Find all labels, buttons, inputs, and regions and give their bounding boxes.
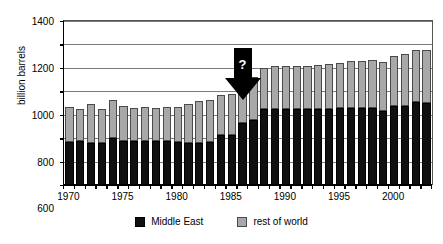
bar-segment-rest-of-world (293, 66, 301, 109)
y-axis-tick-label: 1000 (32, 109, 54, 120)
legend-label-middle-east: Middle East (151, 216, 203, 227)
bar-column (401, 54, 409, 185)
gridline (64, 21, 432, 22)
bar-segment-middle-east (282, 109, 290, 185)
x-axis-tick (334, 185, 335, 189)
y-axis-tick: 1400 (60, 21, 64, 22)
x-axis-tick (215, 185, 216, 189)
bar-column (282, 66, 290, 185)
bar-segment-rest-of-world (347, 61, 355, 108)
bar-column (325, 64, 333, 185)
x-axis-labels: 1970197519801985199019952000 (63, 185, 432, 209)
bar-segment-rest-of-world (195, 101, 203, 143)
bar-column (152, 108, 160, 185)
y-axis-tick-label: 1200 (32, 62, 54, 73)
bar-column (217, 95, 225, 185)
bar-segment-rest-of-world (401, 54, 409, 106)
bar-segment-rest-of-world (152, 108, 160, 142)
bar-column (87, 104, 95, 185)
bar-column (163, 107, 171, 185)
bar-column (184, 104, 192, 185)
bar-column (76, 109, 84, 185)
x-axis-tick (290, 185, 291, 189)
legend-label-rest-of-world: rest of world (253, 216, 307, 227)
bar-segment-middle-east (228, 135, 236, 185)
x-axis-tick (409, 185, 410, 189)
x-axis-tick (344, 185, 345, 189)
bar-segment-middle-east (184, 143, 192, 185)
x-axis-tick (247, 185, 248, 189)
x-axis-tick (355, 185, 356, 189)
x-axis-tick (225, 185, 226, 189)
bar-column (314, 65, 322, 185)
bar-segment-middle-east (119, 141, 127, 185)
bar-column (336, 63, 344, 185)
bar-segment-middle-east (368, 108, 376, 185)
bar-segment-rest-of-world (76, 109, 84, 142)
bar-column (65, 107, 73, 185)
bar-segment-rest-of-world (87, 104, 95, 142)
bar-segment-rest-of-world (379, 62, 387, 111)
bar-segment-middle-east (152, 141, 160, 185)
bar-column (119, 106, 127, 185)
bar-segment-middle-east (260, 109, 268, 185)
chart-figure: billion barrels 020040060080010001200140… (0, 0, 443, 244)
bar-segment-rest-of-world (325, 64, 333, 109)
bar-segment-middle-east (238, 123, 246, 185)
bar-segment-middle-east (293, 109, 301, 185)
down-arrow-annotation: ? (225, 48, 261, 100)
x-axis-tick (160, 185, 161, 189)
bar-segment-middle-east (76, 141, 84, 185)
bar-segment-middle-east (195, 143, 203, 185)
x-axis-tick (150, 185, 151, 189)
y-axis-tick: 600 (60, 115, 64, 116)
y-axis-tick: 400 (60, 138, 64, 139)
plot-area: 0200400600800100012001400 ? (63, 20, 433, 185)
bar-segment-middle-east (206, 142, 214, 185)
bar-segment-rest-of-world (217, 95, 225, 135)
y-axis-tick-label: 600 (37, 203, 54, 214)
bar-segment-middle-east (141, 141, 149, 185)
x-axis-tick-label: 2000 (382, 191, 404, 202)
bar-segment-middle-east (401, 106, 409, 185)
bar-column (174, 107, 182, 185)
y-axis-tick-label: 800 (37, 156, 54, 167)
x-axis-tick (323, 185, 324, 189)
x-axis-tick (236, 185, 237, 189)
x-axis-tick (106, 185, 107, 189)
bar-column (260, 68, 268, 185)
x-axis-tick (193, 185, 194, 189)
bar-segment-middle-east (249, 120, 257, 185)
legend-item-middle-east: Middle East (135, 216, 203, 227)
bar-segment-rest-of-world (130, 108, 138, 142)
bar-segment-middle-east (87, 143, 95, 185)
x-axis-tick (204, 185, 205, 189)
bar-segment-rest-of-world (119, 106, 127, 141)
x-axis-tick-label: 1975 (111, 191, 133, 202)
x-axis-tick-label: 1990 (274, 191, 296, 202)
x-axis-tick (399, 185, 400, 189)
y-axis-tick-label: 1400 (32, 16, 54, 27)
bar-segment-rest-of-world (282, 66, 290, 109)
x-axis-tick (85, 185, 86, 189)
y-axis-title: billion barrels (16, 11, 27, 141)
bar-segment-rest-of-world (358, 61, 366, 107)
bar-column (98, 109, 106, 185)
x-axis-tick (63, 185, 64, 189)
bar-segment-rest-of-world (98, 109, 106, 143)
bar-segment-rest-of-world (174, 107, 182, 142)
bar-segment-middle-east (130, 141, 138, 185)
bar-segment-rest-of-world (109, 100, 117, 138)
bar-segment-middle-east (65, 142, 73, 185)
bar-column (390, 56, 398, 185)
legend-item-rest-of-world: rest of world (237, 216, 307, 227)
bar-segment-rest-of-world (163, 107, 171, 142)
bar-segment-rest-of-world (141, 107, 149, 142)
x-axis-tick (420, 185, 421, 189)
bar-segment-middle-east (109, 138, 117, 185)
bar-column (206, 100, 214, 185)
bar-column (347, 61, 355, 185)
bar-column (141, 107, 149, 185)
bar-segment-rest-of-world (336, 63, 344, 108)
bar-segment-rest-of-world (314, 65, 322, 109)
